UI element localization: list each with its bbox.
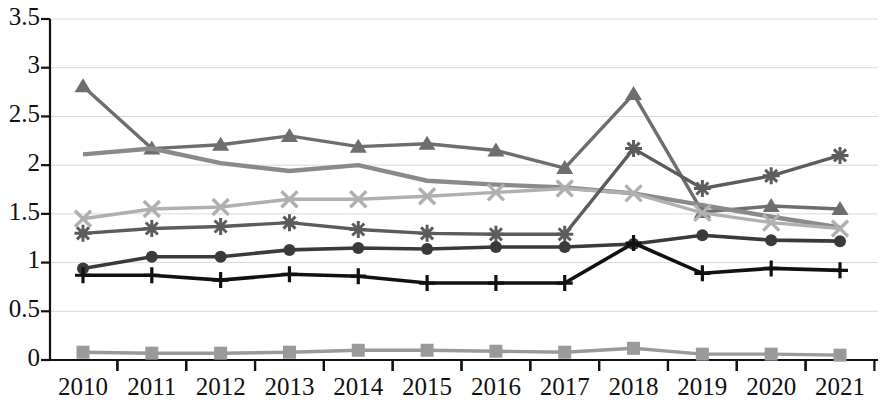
circle-marker: [490, 241, 502, 253]
x-axis-tick-label: 2012: [196, 373, 246, 400]
circle-marker: [215, 251, 227, 263]
series-7: [77, 342, 847, 362]
asterisk-marker: [694, 180, 711, 197]
circle-marker: [834, 235, 846, 247]
triangle-marker: [625, 86, 642, 100]
y-axis-tick-label: 2.5: [9, 100, 40, 127]
x-axis: [50, 360, 878, 371]
x-axis-tick-label: 2016: [471, 373, 521, 400]
square-marker: [145, 347, 158, 360]
square-marker: [421, 344, 434, 357]
asterisk-marker: [281, 214, 298, 231]
plus-marker: [488, 275, 504, 291]
square-marker: [214, 347, 227, 360]
square-marker: [627, 342, 640, 355]
asterisk-marker: [487, 226, 504, 243]
x-axis-tick-label: 2010: [58, 373, 108, 400]
series-line: [83, 235, 840, 268]
plus-marker: [350, 268, 366, 284]
data-series-group: [75, 78, 849, 361]
x-axis-tick-label: 2019: [677, 373, 727, 400]
plus-marker: [213, 272, 229, 288]
y-axis-tick-label: 1.5: [9, 198, 40, 225]
line-chart: 00.511.522.533.5 20102011201220132014201…: [0, 0, 881, 404]
plus-marker: [557, 275, 573, 291]
chart-svg: 00.511.522.533.5 20102011201220132014201…: [0, 0, 881, 404]
y-axis-tick-labels: 00.511.522.533.5: [9, 3, 40, 371]
circle-marker: [421, 243, 433, 255]
plus-marker: [144, 267, 160, 283]
asterisk-marker: [763, 167, 780, 184]
series-5: [77, 229, 846, 274]
gridlines: [50, 19, 878, 311]
circle-marker: [696, 229, 708, 241]
y-axis-tick-label: 0: [28, 344, 41, 371]
series-line: [83, 149, 840, 235]
circle-marker: [559, 241, 571, 253]
x-axis-tick-label: 2021: [815, 373, 865, 400]
plus-marker: [626, 235, 642, 251]
y-axis-tick-label: 3.5: [9, 3, 40, 30]
plus-marker: [419, 275, 435, 291]
circle-marker: [352, 242, 364, 254]
square-marker: [283, 346, 296, 359]
square-marker: [558, 346, 571, 359]
plus-marker: [694, 265, 710, 281]
asterisk-marker: [350, 221, 367, 238]
x-axis-tick-label: 2013: [264, 373, 314, 400]
y-axis-tick-label: 0.5: [9, 295, 40, 322]
circle-marker: [765, 234, 777, 246]
square-marker: [489, 345, 502, 358]
triangle-marker: [75, 78, 92, 92]
x-axis-tick-label: 2015: [402, 373, 452, 400]
square-marker: [765, 348, 778, 361]
asterisk-marker: [832, 147, 849, 164]
circle-marker: [146, 251, 158, 263]
x-axis-tick-label: 2018: [609, 373, 659, 400]
square-marker: [77, 346, 90, 359]
asterisk-marker: [556, 226, 573, 243]
x-axis-tick-label: 2020: [746, 373, 796, 400]
x-axis-tick-label: 2017: [540, 373, 590, 400]
y-axis: [41, 19, 50, 360]
series-line: [83, 348, 840, 355]
plus-marker: [832, 262, 848, 278]
square-marker: [834, 349, 847, 362]
x-axis-tick-labels: 2010201120122013201420152016201720182019…: [58, 373, 865, 400]
asterisk-marker: [143, 220, 160, 237]
y-axis-tick-label: 3: [28, 51, 41, 78]
square-marker: [352, 344, 365, 357]
circle-marker: [283, 244, 295, 256]
asterisk-marker: [75, 225, 92, 242]
asterisk-marker: [212, 218, 229, 235]
square-marker: [696, 348, 709, 361]
y-axis-tick-label: 2: [28, 149, 41, 176]
y-axis-tick-label: 1: [28, 246, 41, 273]
x-axis-tick-label: 2011: [127, 373, 176, 400]
x-axis-tick-label: 2014: [333, 373, 384, 400]
asterisk-marker: [419, 225, 436, 242]
triangle-marker: [281, 128, 298, 142]
series-1: [75, 78, 849, 218]
plus-marker: [281, 266, 297, 282]
asterisk-marker: [625, 140, 642, 157]
